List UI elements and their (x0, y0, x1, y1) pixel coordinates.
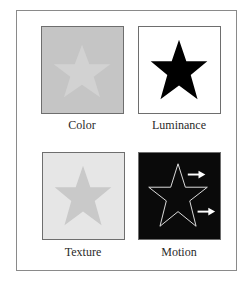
texture-panel (42, 152, 125, 240)
star-icon (43, 153, 124, 239)
arrow-right-icon (188, 171, 206, 179)
arrow-right-icon (198, 208, 216, 216)
star-icon (42, 27, 123, 113)
motion-label: Motion (129, 245, 229, 260)
luminance-panel (138, 26, 221, 114)
texture-label: Texture (33, 245, 133, 260)
star-icon (139, 27, 220, 113)
color-label: Color (32, 118, 132, 133)
color-panel (41, 26, 124, 114)
figure-frame: Color Luminance Texture Motion (16, 10, 237, 271)
luminance-label: Luminance (129, 118, 229, 133)
motion-panel (138, 152, 221, 240)
